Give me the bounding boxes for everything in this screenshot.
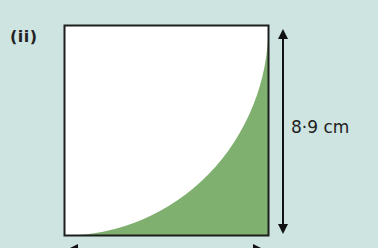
part-label: (ii) [10, 27, 38, 46]
side-length-label: 8·9 cm [291, 117, 349, 137]
